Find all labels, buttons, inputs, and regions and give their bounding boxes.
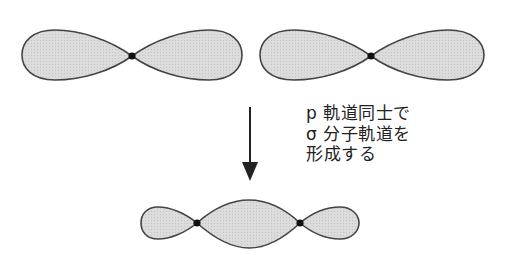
caption: p 軌道同士で σ 分子軌道を 形成する (306, 103, 411, 165)
sigma-molecular-orbital (141, 200, 359, 248)
orbital-diagram (0, 0, 506, 266)
p-orbital-left (22, 30, 242, 80)
node-dot (193, 219, 200, 226)
node-dot (367, 52, 374, 59)
caption-line-3: 形成する (306, 144, 411, 165)
node-dot (128, 52, 135, 59)
node-dot (296, 219, 303, 226)
caption-line-1: p 軌道同士で (306, 103, 411, 124)
p-orbital-right (260, 30, 484, 80)
caption-line-2: σ 分子軌道を (306, 124, 411, 145)
down-arrow-icon (242, 107, 258, 181)
